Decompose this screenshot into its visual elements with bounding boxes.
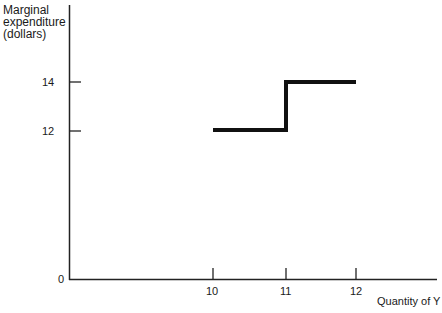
x-tick-label-12: 12 bbox=[350, 286, 362, 297]
chart-plot bbox=[0, 0, 442, 313]
y-tick-label-12: 12 bbox=[42, 126, 54, 137]
marginal-expenditure-step-line bbox=[213, 82, 356, 130]
y-tick-label-14: 14 bbox=[42, 77, 54, 88]
x-tick-label-10: 10 bbox=[206, 286, 218, 297]
x-axis-label: Quantity of Y bbox=[377, 295, 440, 307]
origin-label: 0 bbox=[58, 274, 64, 285]
x-tick-label-11: 11 bbox=[280, 286, 291, 297]
